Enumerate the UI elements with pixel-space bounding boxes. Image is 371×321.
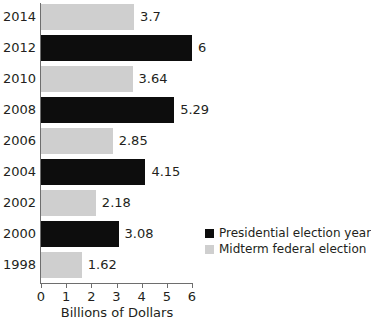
bar-row: 20103.64 xyxy=(0,66,364,92)
bar-2010 xyxy=(41,66,133,92)
bar-2000 xyxy=(41,221,119,247)
y-axis-category-label: 2014 xyxy=(0,4,36,30)
bar-row: 20126 xyxy=(0,35,364,61)
x-axis-tick xyxy=(167,283,168,288)
chart-legend: Presidential election year Midterm feder… xyxy=(205,225,371,257)
x-axis-tick-label: 3 xyxy=(107,289,127,304)
y-axis-category-label: 2012 xyxy=(0,35,36,61)
x-axis-tick xyxy=(41,283,42,288)
bar-row: 20085.29 xyxy=(0,97,364,123)
legend-label-midterm: Midterm federal election xyxy=(219,242,366,256)
x-axis-tick-label: 0 xyxy=(31,289,51,304)
bar-value-label: 2.18 xyxy=(102,190,131,216)
x-axis-tick xyxy=(91,283,92,288)
legend-swatch-midterm-icon xyxy=(205,245,214,254)
y-axis-category-label: 1998 xyxy=(0,252,36,278)
bar-value-label: 3.08 xyxy=(125,221,154,247)
bar-value-label: 5.29 xyxy=(180,97,209,123)
y-axis-category-label: 2010 xyxy=(0,66,36,92)
y-axis-category-label: 2008 xyxy=(0,97,36,123)
y-axis-category-label: 2004 xyxy=(0,159,36,185)
legend-label-presidential: Presidential election year xyxy=(219,226,371,240)
y-axis-category-label: 2002 xyxy=(0,190,36,216)
bar-2012 xyxy=(41,35,192,61)
x-axis-tick-label: 2 xyxy=(81,289,101,304)
bar-value-label: 6 xyxy=(198,35,206,61)
bar-value-label: 3.64 xyxy=(139,66,168,92)
legend-item-presidential: Presidential election year xyxy=(205,225,371,241)
x-axis-tick-label: 4 xyxy=(132,289,152,304)
x-axis-tick-label: 6 xyxy=(182,289,202,304)
bar-value-label: 1.62 xyxy=(88,252,117,278)
bar-row: 20062.85 xyxy=(0,128,364,154)
x-axis-tick xyxy=(117,283,118,288)
bar-2014 xyxy=(41,4,134,30)
x-axis-tick xyxy=(192,283,193,288)
bar-1998 xyxy=(41,252,82,278)
bar-row: 20143.7 xyxy=(0,4,364,30)
y-axis-category-label: 2006 xyxy=(0,128,36,154)
bar-2004 xyxy=(41,159,145,185)
x-axis-tick-label: 1 xyxy=(56,289,76,304)
bar-value-label: 4.15 xyxy=(151,159,180,185)
x-axis-tick-label: 5 xyxy=(157,289,177,304)
legend-item-midterm: Midterm federal election xyxy=(205,241,371,257)
bar-2006 xyxy=(41,128,113,154)
bar-value-label: 2.85 xyxy=(119,128,148,154)
bar-value-label: 3.7 xyxy=(140,4,161,30)
x-axis-tick xyxy=(66,283,67,288)
x-axis-tick xyxy=(142,283,143,288)
bar-row: 20044.15 xyxy=(0,159,364,185)
bar-2008 xyxy=(41,97,174,123)
x-axis-title: Billions of Dollars xyxy=(41,305,193,320)
y-axis-category-label: 2000 xyxy=(0,221,36,247)
bar-2002 xyxy=(41,190,96,216)
legend-swatch-presidential-icon xyxy=(205,229,214,238)
bar-row: 20022.18 xyxy=(0,190,364,216)
